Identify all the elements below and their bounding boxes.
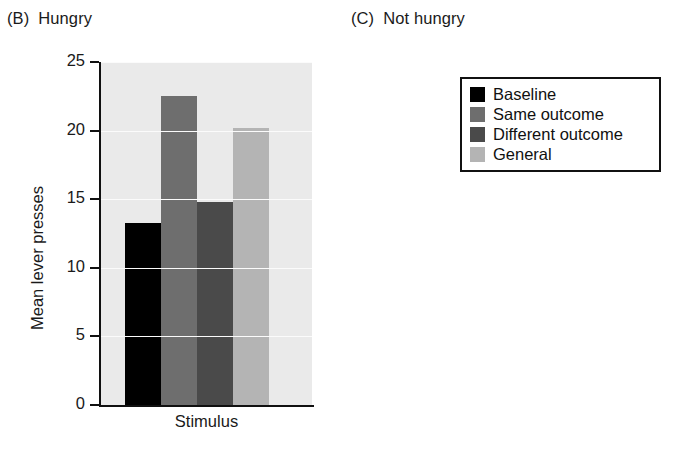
panel-c-tag: (C) — [351, 9, 374, 27]
y-tick-label: 5 — [45, 325, 85, 344]
gridline — [101, 62, 312, 63]
y-tick-mark — [90, 198, 99, 200]
panel-b-title: (B)Hungry — [7, 9, 92, 28]
panel-b-x-axis-label: Stimulus — [101, 412, 312, 431]
legend-label: Same outcome — [493, 106, 604, 123]
panel-b-bars — [101, 62, 312, 405]
legend: BaselineSame outcomeDifferent outcomeGen… — [460, 77, 661, 172]
legend-label: General — [493, 146, 552, 163]
legend-swatch-icon — [470, 107, 485, 122]
y-tick-mark — [90, 61, 99, 63]
bar-baseline — [125, 223, 161, 405]
gridline — [101, 268, 312, 269]
y-tick-label: 20 — [45, 120, 85, 139]
panel-b-x-axis-line — [99, 405, 314, 407]
figure: (B)Hungry 0510152025 Mean lever presses … — [0, 0, 687, 450]
legend-item: General — [470, 144, 652, 164]
y-tick-mark — [90, 267, 99, 269]
y-tick-label: 10 — [45, 257, 85, 276]
bar-different-outcome — [197, 202, 233, 405]
bar-same-outcome — [161, 96, 197, 405]
legend-label: Baseline — [493, 86, 556, 103]
y-tick-label: 0 — [45, 394, 85, 413]
gridline — [101, 336, 312, 337]
y-tick-mark — [90, 404, 99, 406]
y-tick-mark — [90, 335, 99, 337]
panel-c-title-text: Not hungry — [383, 9, 465, 27]
legend-item: Different outcome — [470, 124, 652, 144]
y-tick-label: 15 — [45, 188, 85, 207]
panel-b-y-axis-line — [99, 62, 101, 407]
panel-c-title: (C)Not hungry — [351, 9, 465, 28]
panel-b-plot-area — [101, 62, 312, 405]
panel-b-y-axis-label: Mean lever presses — [28, 186, 47, 330]
y-tick-mark — [90, 130, 99, 132]
panel-b-title-text: Hungry — [38, 9, 92, 27]
legend-swatch-icon — [470, 127, 485, 142]
legend-item: Baseline — [470, 84, 652, 104]
gridline — [101, 199, 312, 200]
legend-label: Different outcome — [493, 126, 623, 143]
gridline — [101, 131, 312, 132]
y-tick-label: 25 — [45, 51, 85, 70]
legend-item: Same outcome — [470, 104, 652, 124]
bar-general — [233, 128, 269, 405]
legend-swatch-icon — [470, 147, 485, 162]
panel-c: (C)Not hungry 0510152025 Mean lever pres… — [344, 0, 687, 450]
panel-b-tag: (B) — [7, 9, 29, 27]
legend-swatch-icon — [470, 87, 485, 102]
panel-b: (B)Hungry 0510152025 Mean lever presses … — [0, 0, 344, 450]
